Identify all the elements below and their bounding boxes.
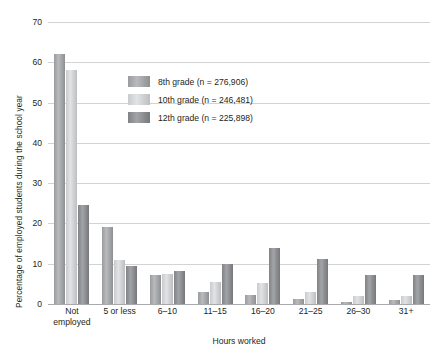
bar [353,296,364,304]
bar-group [239,22,287,304]
y-axis-tick-label: 50 [32,98,42,108]
legend-label: 10th grade (n = 246,481) [158,95,253,105]
bar [293,299,304,304]
bar-group [191,22,239,304]
bar [305,292,316,304]
x-axis-tick-label: 11–15 [191,306,239,327]
plot-area: 010203040506070 [48,22,430,304]
legend-item: 8th grade (n = 276,906) [128,76,253,87]
y-axis-tick-label: 40 [32,138,42,148]
legend: 8th grade (n = 276,906)10th grade (n = 2… [128,76,253,123]
gridline [48,304,430,305]
bar [78,205,89,304]
x-axis-tick-labels: Notemployed5 or less6–1011–1516–2021–252… [48,306,430,327]
y-axis-tick-label: 20 [32,218,42,228]
legend-swatch [128,76,150,87]
x-axis-tick-label: 31+ [382,306,430,327]
legend-item: 12th grade (n = 225,898) [128,112,253,123]
y-axis-title: Percentage of employed students during t… [14,8,30,308]
bar-groups [48,22,430,304]
bar-group [287,22,335,304]
bar-group [96,22,144,304]
bar [198,292,209,304]
y-axis-tick-label: 60 [32,57,42,67]
x-axis-title: Hours worked [48,336,430,346]
legend-item: 10th grade (n = 246,481) [128,94,253,105]
legend-label: 8th grade (n = 276,906) [158,77,248,87]
bar [162,274,173,304]
bar [401,296,412,304]
bar [257,283,268,304]
bar [126,266,137,304]
bar [102,227,113,304]
bar [210,282,221,304]
bar [389,300,400,304]
bar [114,260,125,304]
bar [222,264,233,304]
bar-group [48,22,96,304]
bar [317,259,328,304]
bar [365,275,376,304]
x-axis-tick-label: 6–10 [144,306,192,327]
bar [150,275,161,304]
x-axis-tick-label: Notemployed [48,306,96,327]
x-axis-tick-label: 5 or less [96,306,144,327]
legend-swatch [128,112,150,123]
bar-group [144,22,192,304]
y-axis-tick-label: 10 [32,259,42,269]
x-axis-tick-label: 21–25 [287,306,335,327]
legend-label: 12th grade (n = 225,898) [158,113,253,123]
bar [413,275,424,304]
bar-group [382,22,430,304]
bar [174,271,185,304]
y-axis-tick-label: 30 [32,178,42,188]
bar-group [335,22,383,304]
y-axis-tick-label: 0 [37,299,42,309]
x-axis-tick-label: 26–30 [335,306,383,327]
bar [269,248,280,304]
bar [245,295,256,304]
bar [66,70,77,304]
bar-chart: Percentage of employed students during t… [0,0,436,354]
x-axis-tick-label: 16–20 [239,306,287,327]
bar [54,54,65,304]
legend-swatch [128,94,150,105]
y-axis-tick-label: 70 [32,17,42,27]
bar [341,302,352,304]
